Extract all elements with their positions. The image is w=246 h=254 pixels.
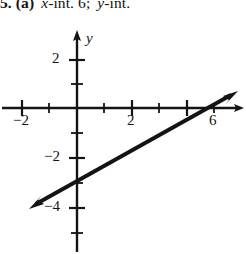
y-tick-label-neg2: −2	[44, 148, 60, 165]
x-tick-label-neg2: −2	[13, 112, 29, 129]
answer-number: 5.	[0, 0, 12, 11]
answer-text-line: 5.(a)x-int. 6;y-int.	[0, 0, 246, 13]
y-axis-label: y	[86, 30, 93, 47]
y-tick-label-neg4: −4	[44, 198, 60, 215]
y-axis	[73, 30, 81, 252]
coordinate-plane-figure: y −2 2 6 2 −2 −4	[0, 14, 246, 254]
x-intercept-text: -int. 6;	[48, 0, 90, 11]
y-tick-label-2: 2	[52, 50, 60, 67]
x-tick-label-2: 2	[127, 112, 135, 129]
y-intercept-text: -int.	[104, 0, 130, 11]
x-tick-label-6: 6	[209, 112, 217, 129]
answer-part-label: (a)	[16, 0, 34, 11]
figure-page: 5.(a)x-int. 6;y-int.	[0, 0, 246, 254]
graph-svg	[0, 14, 246, 254]
